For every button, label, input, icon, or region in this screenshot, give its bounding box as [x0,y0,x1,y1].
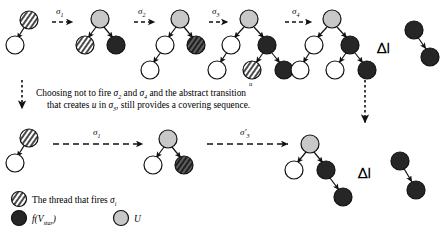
node-hatched [20,11,38,29]
node-dark [341,36,359,54]
node-dark [421,48,439,66]
node-dark [391,152,409,170]
figure-svg: σ1 σ2 σ3 u [0,0,448,233]
node-gray [91,10,109,28]
legend-label-thread: The thread that fires σi [32,195,117,207]
node-gray [171,10,189,28]
node-white [222,36,240,54]
node-white [326,61,344,79]
node-white [208,61,226,79]
relation-symbol-top: ⊵ [372,41,392,55]
node-hatched [20,129,38,147]
caption-line-2: that creates u in σ3, still provides a c… [47,100,250,112]
legend-marker-dark [12,211,27,226]
node-hatched [76,36,94,54]
node-white [291,61,309,79]
relation-symbol-bottom: ⊵ [353,166,373,180]
node-dark [405,21,423,39]
node-white [305,36,323,54]
node-hatched-dark [187,36,205,54]
caption-block: Choosing not to fire σ2 and σ4 and the a… [36,88,250,112]
node-white [156,36,174,54]
node-dark [258,36,276,54]
node-dark [407,181,425,199]
legend-marker-hatched [12,192,27,207]
node-white [141,61,159,79]
node-gray [323,10,341,28]
figure-container: σ1 σ2 σ3 u [0,0,448,233]
node-dark [358,61,376,79]
node-dark [275,61,293,79]
node-white [6,154,24,172]
caption-line-1: Choosing not to fire σ2 and σ4 and the a… [36,88,246,100]
legend-marker-gray [114,211,129,226]
node-gray [159,130,177,148]
relation-glyph: ⊵ [353,166,373,180]
node-white [6,36,24,54]
node-dark [317,161,335,179]
node-hatched-dark [175,156,193,174]
relation-glyph: ⊵ [372,41,392,55]
node-hatched-u [243,61,261,79]
node-dark [107,36,125,54]
node-white [285,161,303,179]
node-dark [334,188,352,206]
node-white [144,156,162,174]
node-gray [301,135,319,153]
node-gray [240,10,258,28]
